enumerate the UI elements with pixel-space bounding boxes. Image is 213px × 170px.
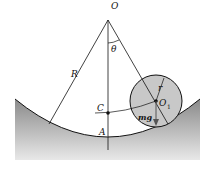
label-R: R xyxy=(70,69,78,79)
physics-diagram: O θ R r O 1 C A mg xyxy=(0,0,213,170)
label-A: A xyxy=(98,127,106,137)
diagram-canvas: O θ R r O 1 C A mg xyxy=(0,0,213,170)
label-O1: O xyxy=(159,98,167,108)
label-O: O xyxy=(111,1,119,11)
label-theta: θ xyxy=(111,44,117,54)
label-C: C xyxy=(97,103,104,113)
label-O1-subscript: 1 xyxy=(167,103,171,110)
label-mg: mg xyxy=(138,112,152,122)
point-C xyxy=(106,111,110,115)
theta-arc xyxy=(108,40,119,43)
label-r: r xyxy=(158,83,163,93)
